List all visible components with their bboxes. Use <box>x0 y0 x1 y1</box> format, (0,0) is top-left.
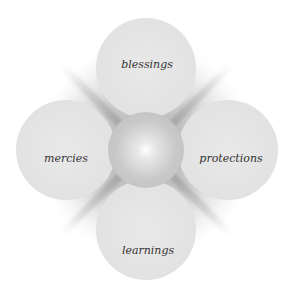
petal-label-left: mercies <box>44 152 88 165</box>
center-sphere <box>108 112 184 188</box>
petal-label-right: protections <box>199 152 262 165</box>
petal-label-top: blessings <box>121 58 173 71</box>
petal-right <box>178 100 278 200</box>
four-petal-diagram: blessings mercies protections learnings <box>0 0 292 294</box>
petal-label-bottom: learnings <box>122 244 174 257</box>
petal-left <box>16 100 116 200</box>
petal-bottom <box>96 180 196 280</box>
